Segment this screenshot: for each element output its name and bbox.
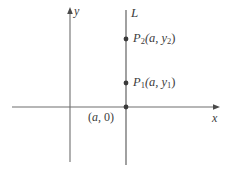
y-axis-label: y: [74, 5, 79, 17]
intercept-label-rest: , 0): [98, 110, 114, 124]
coordinate-plane-figure: L y x P2(a, y2) P1(a, y1) (a, 0): [0, 0, 237, 170]
x-axis-label: x: [212, 112, 217, 124]
x-axis-arrowhead-icon: [213, 104, 220, 110]
point-label-intercept: (a, 0): [88, 111, 114, 123]
point-label-p1-letter: P: [133, 75, 141, 89]
point-marker-p2: [124, 37, 129, 42]
point-label-p1-close: ): [171, 75, 175, 89]
line-label-L: L: [131, 6, 138, 19]
point-label-p1: P1(a, y1): [133, 76, 176, 89]
point-label-p2-close: ): [171, 31, 175, 45]
point-marker-intercept: [124, 105, 129, 110]
figure-canvas: [0, 0, 237, 170]
point-marker-p1: [124, 81, 129, 86]
point-label-p1-coords: (a, y: [145, 75, 167, 89]
point-label-p2-coords: (a, y: [145, 31, 167, 45]
point-label-p2-letter: P: [133, 31, 141, 45]
y-axis-arrowhead-icon: [67, 7, 73, 14]
point-label-p2: P2(a, y2): [133, 32, 176, 45]
